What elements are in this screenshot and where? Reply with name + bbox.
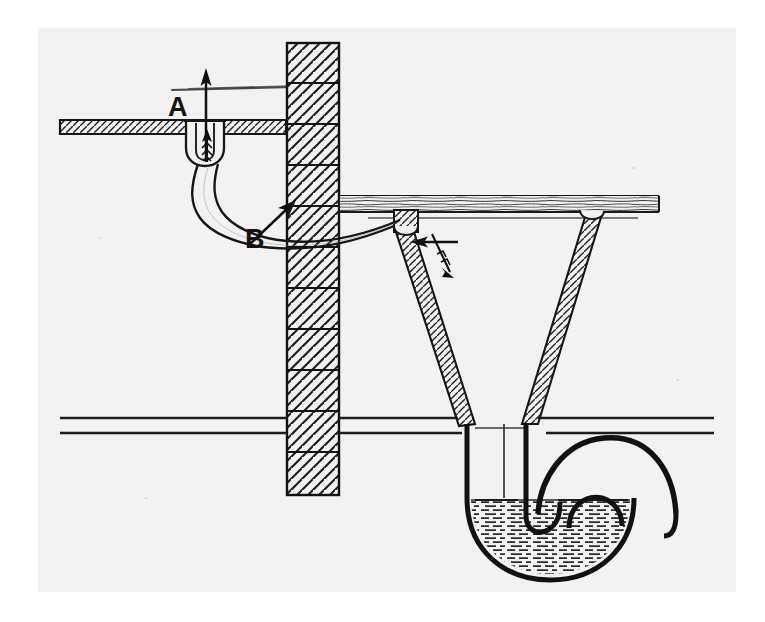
ground-line-lower bbox=[60, 428, 714, 433]
feather-arrow-lower bbox=[432, 234, 454, 278]
lower-floor-board bbox=[339, 196, 659, 218]
figure-canvas: A B bbox=[0, 0, 765, 622]
label-b-pointer-arrow bbox=[238, 178, 348, 258]
paper-sheet: A B bbox=[38, 28, 736, 592]
masonry-wall bbox=[287, 43, 339, 495]
label-a: A bbox=[168, 94, 188, 121]
plumbing-section-diagram bbox=[38, 28, 736, 592]
